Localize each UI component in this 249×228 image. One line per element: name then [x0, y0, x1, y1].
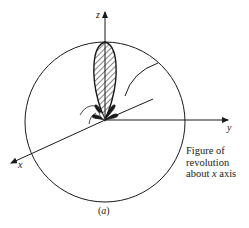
figure-caption: (a) — [98, 206, 110, 216]
radiation-pattern-drawing — [0, 0, 249, 228]
radiation-pattern-figure: z y x Figure of revolution about x axis … — [0, 0, 249, 228]
annotation-line-2: revolution — [186, 157, 236, 169]
revolution-arc — [125, 63, 158, 96]
annotation-line-3: about x axis — [186, 168, 236, 180]
y-axis-label: y — [227, 123, 231, 133]
side-lobe-arc-left — [80, 106, 96, 115]
x-axis-label: x — [18, 160, 22, 170]
annotation-line-3-suffix: axis — [217, 168, 237, 179]
annotation-line-1: Figure of — [186, 145, 236, 157]
annotation-line-3-prefix: about — [186, 168, 212, 179]
z-axis-label: z — [96, 10, 100, 20]
caption-close-paren: ) — [106, 205, 109, 216]
revolution-annotation: Figure of revolution about x axis — [186, 145, 236, 180]
